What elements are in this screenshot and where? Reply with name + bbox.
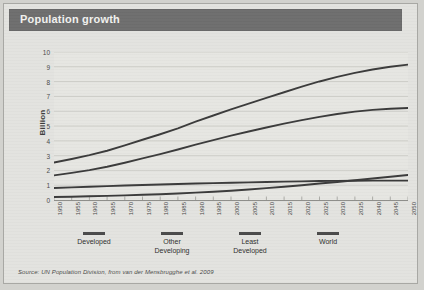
y-axis-tick-label: 5 xyxy=(46,123,50,130)
x-axis-tick-label: 1965 xyxy=(110,202,116,215)
plot-area xyxy=(54,52,408,201)
legend-item[interactable]: World xyxy=(285,232,371,247)
y-axis-tick-label: 6 xyxy=(46,108,50,115)
y-axis-ticks: 012345678910 xyxy=(32,52,50,200)
source-note: Source: UN Population Division, from van… xyxy=(18,269,214,275)
y-axis-tick-label: 1 xyxy=(46,182,50,189)
chart-legend: DevelopedOtherDevelopingLeastDevelopedWo… xyxy=(14,232,412,258)
series-line-world xyxy=(54,65,408,163)
legend-label: World xyxy=(285,238,371,247)
paper-sheet: Population growth Billion 012345678910 1… xyxy=(3,3,418,284)
y-axis-tick-label: 2 xyxy=(46,167,50,174)
series-line-other-developing xyxy=(54,108,408,175)
legend-label: Least xyxy=(207,238,293,247)
y-axis-tick-label: 0 xyxy=(46,197,50,204)
x-axis-tick-label: 1960 xyxy=(92,202,98,215)
legend-swatch-icon xyxy=(239,232,261,235)
legend-swatch-icon xyxy=(83,232,105,235)
legend-label: Other xyxy=(129,238,215,247)
plot-svg xyxy=(54,52,408,200)
x-axis-tick-label: 2005 xyxy=(252,202,258,215)
y-axis-tick-label: 10 xyxy=(43,49,50,56)
x-axis-tick-label: 2035 xyxy=(358,202,364,215)
x-axis-tick-label: 2025 xyxy=(323,202,329,215)
x-axis-tick-label: 1950 xyxy=(57,202,63,215)
legend-label: Developed xyxy=(207,247,293,256)
y-axis-tick-label: 4 xyxy=(46,137,50,144)
x-axis-tick-label: 2010 xyxy=(269,202,275,215)
x-axis-tick-label: 2040 xyxy=(376,202,382,215)
legend-swatch-icon xyxy=(317,232,339,235)
legend-item[interactable]: LeastDeveloped xyxy=(207,232,293,255)
y-axis-tick-label: 3 xyxy=(46,152,50,159)
y-axis-tick-label: 9 xyxy=(46,63,50,70)
x-axis-tick-label: 1955 xyxy=(75,202,81,215)
x-axis-tick-label: 1970 xyxy=(128,202,134,215)
legend-item[interactable]: Developed xyxy=(51,232,137,247)
figure-page: Population growth Billion 012345678910 1… xyxy=(0,0,424,290)
legend-label: Developing xyxy=(129,247,215,256)
x-axis-tick-label: 1985 xyxy=(181,202,187,215)
x-axis-tick-label: 1990 xyxy=(199,202,205,215)
page-title: Population growth xyxy=(20,13,120,25)
population-growth-chart: Billion 012345678910 1950195519601965197… xyxy=(14,40,412,215)
x-axis-tick-label: 2015 xyxy=(287,202,293,215)
x-axis-ticks: 1950195519601965197019751980198519901995… xyxy=(54,202,408,236)
x-axis-tick-label: 1995 xyxy=(216,202,222,215)
legend-label: Developed xyxy=(51,238,137,247)
legend-item[interactable]: OtherDeveloping xyxy=(129,232,215,255)
legend-swatch-icon xyxy=(161,232,183,235)
x-axis-tick-label: 2000 xyxy=(234,202,240,215)
y-axis-tick-label: 7 xyxy=(46,93,50,100)
x-axis-tick-label: 2050 xyxy=(411,202,417,215)
series-line-developed xyxy=(54,181,408,188)
x-axis-tick-label: 2030 xyxy=(340,202,346,215)
x-axis-tick-label: 1975 xyxy=(146,202,152,215)
y-axis-tick-label: 8 xyxy=(46,78,50,85)
x-axis-tick-label: 2045 xyxy=(393,202,399,215)
x-axis-tick-label: 1980 xyxy=(163,202,169,215)
title-banner: Population growth xyxy=(9,9,402,31)
x-axis-tick-label: 2020 xyxy=(305,202,311,215)
